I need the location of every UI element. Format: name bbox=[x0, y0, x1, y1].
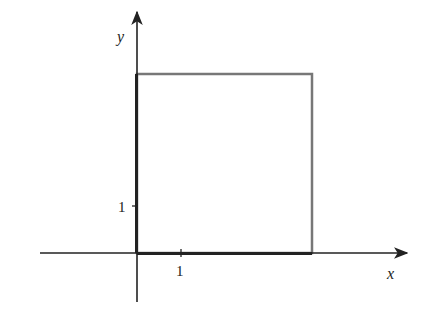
x-tick-label: 1 bbox=[176, 263, 184, 279]
y-tick-label: 1 bbox=[118, 199, 126, 215]
coordinate-diagram: 1 1 x y bbox=[0, 0, 444, 320]
y-axis-label: y bbox=[115, 28, 125, 46]
x-axis-label: x bbox=[386, 265, 394, 282]
unit-square bbox=[137, 74, 312, 253]
